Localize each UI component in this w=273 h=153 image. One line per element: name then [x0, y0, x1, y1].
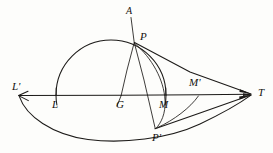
- label-L-prime: L': [12, 81, 20, 92]
- label-P: P: [140, 31, 147, 42]
- axis-line: [19, 94, 250, 95]
- main-circle: [56, 40, 166, 95]
- label-A: A: [126, 6, 132, 16]
- label-M-prime: M': [189, 77, 201, 88]
- line-P-to-G: [121, 43, 134, 96]
- chord-Pprime-to-T: [155, 95, 251, 129]
- label-M: M: [159, 99, 168, 110]
- label-L: L: [52, 99, 58, 110]
- arrowhead-upper-to-T-icon: [239, 89, 251, 94]
- geometry-figure: A P L' M' T L G M P': [0, 0, 273, 153]
- label-P-prime: P': [152, 132, 161, 143]
- label-T: T: [258, 87, 264, 98]
- label-G: G: [116, 99, 124, 110]
- figure-canvas: [0, 0, 273, 153]
- axis-intersection-ticks: [56, 88, 166, 95]
